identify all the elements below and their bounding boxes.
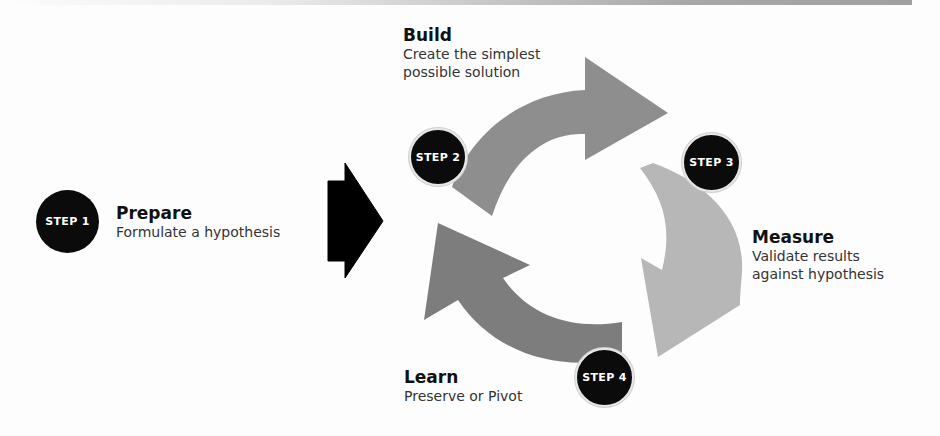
step-3-label: Measure Validate results against hypothe… [752,227,884,283]
step-1-desc: Formulate a hypothesis [116,223,280,241]
step-2-badge: STEP 2 [409,128,467,186]
entry-arrow-icon [328,163,383,278]
step-2-label: Build Create the simplest possible solut… [403,25,540,81]
step-1-label: Prepare Formulate a hypothesis [116,203,280,241]
step-4-title: Learn [404,367,522,387]
step-1-title: Prepare [116,203,280,223]
step-2-desc-line-1: Create the simplest [403,45,540,63]
step-3-badge: STEP 3 [682,133,741,192]
step-4-badge: STEP 4 [575,348,634,407]
step-4-desc: Preserve or Pivot [404,387,522,405]
step-2-title: Build [403,25,540,45]
measure-arrow-icon [640,163,742,357]
step-3-desc-line-1: Validate results [752,247,884,265]
step-3-title: Measure [752,227,884,247]
learn-arrow-icon [424,223,622,363]
step-3-desc-line-2: against hypothesis [752,265,884,283]
step-1-badge: STEP 1 [36,190,99,253]
step-2-desc-line-2: possible solution [403,63,540,81]
step-4-label: Learn Preserve or Pivot [404,367,522,405]
